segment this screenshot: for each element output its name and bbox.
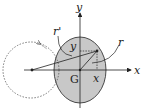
moment-of-inertia-diagram: y x r' r y G x (0, 0, 144, 108)
y-component-label: y (69, 40, 77, 53)
point-p (96, 50, 99, 53)
r-label: r (118, 36, 124, 49)
point-g (79, 69, 81, 71)
x-axis-label: x (134, 64, 141, 77)
r-prime-label: r' (53, 25, 61, 38)
y-axis-label: y (75, 1, 83, 14)
centroid-label: G (70, 73, 79, 86)
x-component-label: x (93, 72, 100, 85)
point-axis (31, 69, 34, 72)
